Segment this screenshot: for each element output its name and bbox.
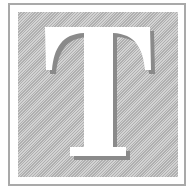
letter-t-icon [0, 0, 191, 192]
